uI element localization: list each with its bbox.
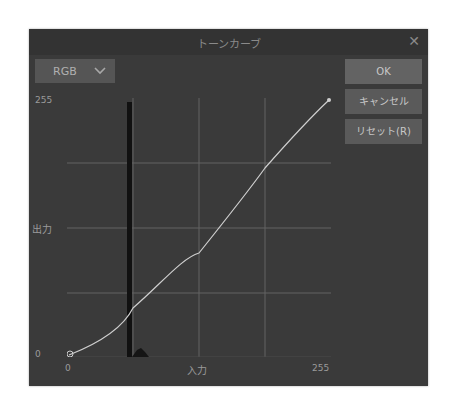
histogram: [127, 102, 149, 357]
title-bar[interactable]: トーンカーブ ✕: [29, 29, 428, 55]
grid-lines: [67, 98, 331, 357]
y-axis-label: 出力: [32, 221, 52, 236]
x-axis-max: 255: [312, 363, 329, 373]
tone-curve-graph[interactable]: [67, 98, 331, 357]
channel-select[interactable]: RGB: [35, 59, 115, 83]
x-axis-min: 0: [65, 363, 71, 373]
channel-select-value: RGB: [53, 65, 77, 78]
dialog-title: トーンカーブ: [29, 35, 428, 51]
tone-curve-dialog: トーンカーブ ✕ RGB OK キャンセル リセット(R) 255 出力 0 0…: [29, 29, 428, 386]
x-axis-label: 入力: [187, 362, 207, 377]
ok-button[interactable]: OK: [345, 59, 422, 84]
reset-button[interactable]: リセット(R): [345, 119, 422, 144]
close-icon[interactable]: ✕: [406, 33, 422, 49]
y-axis-min: 0: [35, 349, 41, 359]
control-point-end[interactable]: [327, 98, 331, 102]
chevron-down-icon: [93, 63, 107, 77]
y-axis-max: 255: [35, 95, 52, 105]
cancel-button[interactable]: キャンセル: [345, 89, 422, 114]
